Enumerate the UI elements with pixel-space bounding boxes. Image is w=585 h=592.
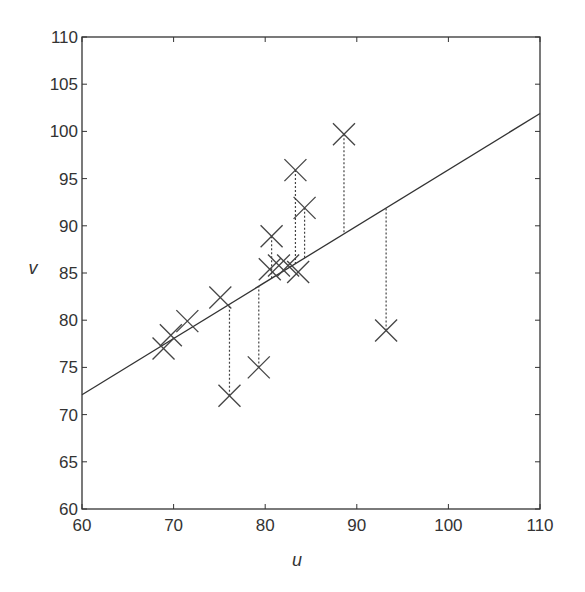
x-tick-label: 110: [526, 516, 553, 535]
y-axis-ticks: 6065707580859095100105110: [50, 28, 540, 519]
y-tick-label: 65: [59, 453, 78, 472]
y-tick-label: 85: [59, 264, 78, 283]
x-marker: [218, 385, 240, 407]
x-marker: [259, 258, 281, 280]
x-axis-ticks: 60708090100110: [73, 37, 554, 535]
plot-frame: [82, 37, 540, 509]
x-marker: [153, 338, 175, 360]
y-tick-label: 70: [59, 406, 78, 425]
y-tick-label: 110: [51, 28, 78, 47]
scatter-plot: 60708090100110 6065707580859095100105110…: [0, 0, 585, 592]
y-tick-label: 80: [59, 311, 78, 330]
y-tick-label: 75: [59, 358, 78, 377]
y-tick-label: 100: [50, 122, 78, 141]
x-marker: [294, 197, 316, 219]
y-axis-label: v: [29, 258, 39, 278]
x-marker: [287, 261, 309, 283]
x-tick-label: 80: [256, 516, 275, 535]
x-tick-label: 90: [347, 516, 366, 535]
x-tick-label: 100: [434, 516, 462, 535]
x-axis-label: u: [292, 550, 302, 570]
residual-lines: [229, 134, 386, 395]
x-marker: [333, 123, 355, 145]
x-marker: [176, 310, 198, 332]
x-marker: [261, 225, 283, 247]
x-marker: [375, 320, 397, 342]
x-marker: [284, 159, 306, 181]
x-marker: [248, 356, 270, 378]
x-marker: [277, 254, 299, 276]
regression-line: [82, 113, 540, 394]
plot-border: [82, 37, 540, 509]
x-marker: [209, 287, 231, 309]
data-markers: [153, 123, 398, 406]
y-tick-label: 105: [50, 75, 78, 94]
y-tick-label: 60: [59, 500, 78, 519]
y-tick-label: 90: [59, 217, 78, 236]
fit-line: [82, 113, 540, 394]
y-tick-label: 95: [59, 170, 78, 189]
x-tick-label: 70: [164, 516, 183, 535]
